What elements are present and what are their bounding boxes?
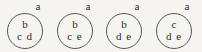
outer-label-a-3: a	[129, 1, 145, 12]
set-diagram-figure: a b c d a b c e a b d e a c d e	[0, 0, 202, 52]
node-group-4: a c d e	[149, 0, 199, 52]
node-group-1: a b c d	[0, 0, 50, 52]
outer-label-a-1: a	[30, 1, 46, 12]
circle-4-bottom-label: d e	[149, 31, 199, 42]
circle-2-bottom-label: c e	[50, 31, 100, 42]
circle-2-top-label: b	[50, 19, 100, 30]
circle-1-bottom-label: c d	[0, 31, 50, 42]
circle-1-top-label: b	[0, 19, 50, 30]
outer-label-a-2: a	[80, 1, 96, 12]
circle-3-top-label: b	[99, 19, 149, 30]
outer-label-a-4: a	[179, 1, 195, 12]
circle-3-bottom-label: d e	[99, 31, 149, 42]
circle-4-top-label: c	[149, 19, 199, 30]
node-group-2: a b c e	[50, 0, 100, 52]
node-group-3: a b d e	[99, 0, 149, 52]
